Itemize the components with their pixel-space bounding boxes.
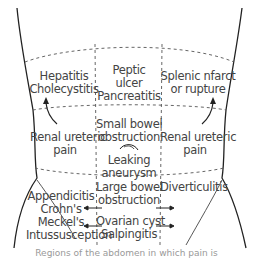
arc-icon xyxy=(120,145,138,150)
middle-dashed-line xyxy=(33,105,226,110)
label-umbilical-lower: Leaking aneurysm xyxy=(96,154,162,180)
label-right-upper: Hepatitis Cholecystitis xyxy=(28,70,100,96)
label-epigastric: Peptic ulcer Pancreatitis xyxy=(96,64,162,103)
upper-dashed-line xyxy=(25,47,234,62)
label-right-flank: Renal ureteric pain xyxy=(30,131,100,157)
figure-caption: Regions of the abdomen in which pain is xyxy=(0,248,253,258)
label-suprapubic-lower: Ovarian cyst Salpingitis xyxy=(96,215,162,241)
label-suprapubic-upper: Large bowel obstruction xyxy=(96,181,162,207)
label-left-flank: Renal ureteric pain xyxy=(160,131,230,157)
left-curved-arrow-icon xyxy=(202,103,213,124)
label-umbilical: Small bowel obstruction xyxy=(96,118,162,144)
label-left-upper: Splenic nfarct or rupture xyxy=(160,70,236,96)
right-body-outline xyxy=(222,8,246,248)
label-right-iliac: Appendicitis Crohn's Meckel's Intussusce… xyxy=(26,190,96,242)
label-left-iliac: Diverticulitis xyxy=(160,181,220,194)
right-curved-arrow-icon xyxy=(46,103,57,124)
